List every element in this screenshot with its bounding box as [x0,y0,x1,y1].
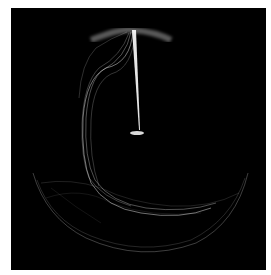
bottom-bowl [33,173,248,252]
light-trails [11,8,266,270]
vertical-beam [130,30,144,135]
artwork-canvas [11,8,266,270]
top-fan [91,30,171,40]
